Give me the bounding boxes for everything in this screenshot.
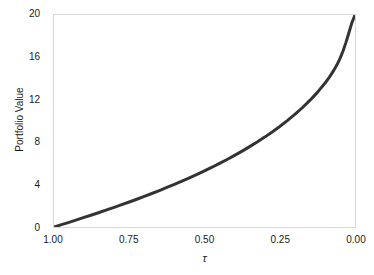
x-tick-label-0-25: 0.25 <box>271 234 290 246</box>
y-tick-label-0: 0 <box>34 223 40 233</box>
portfolio-value-curve <box>54 15 355 227</box>
chart-figure: 0 4 8 12 16 20 Portfolio Value 1.00 0.75… <box>0 0 374 275</box>
x-tick-label-1-00: 1.00 <box>43 234 62 246</box>
y-tick-label-4: 4 <box>34 180 40 190</box>
y-tick-label-16: 16 <box>29 52 40 62</box>
x-tick-label-0-50: 0.50 <box>195 234 214 246</box>
x-tick-label-0-75: 0.75 <box>119 234 138 246</box>
y-tick-label-8: 8 <box>34 137 40 147</box>
y-tick-label-20: 20 <box>29 9 40 19</box>
plot-area <box>53 14 356 228</box>
y-axis-title: Portfolio Value <box>14 60 25 180</box>
y-tick-label-12: 12 <box>29 95 40 105</box>
x-axis-title: τ <box>53 252 356 264</box>
x-axis-tick-labels: 1.00 0.75 0.50 0.25 0.00 <box>0 234 374 248</box>
x-tick-label-0-00: 0.00 <box>346 234 365 246</box>
